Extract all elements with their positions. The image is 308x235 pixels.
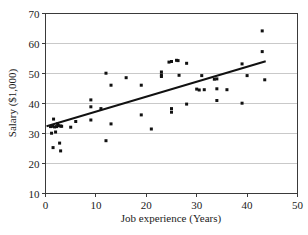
data-point <box>241 102 244 105</box>
data-point <box>89 119 92 122</box>
y-tick-label: 50 <box>29 68 41 80</box>
data-point <box>160 71 163 74</box>
data-point <box>185 62 188 65</box>
y-tick-label: 30 <box>29 128 41 140</box>
y-tick-label: 60 <box>29 38 41 50</box>
data-point <box>177 59 180 62</box>
data-point <box>140 113 143 116</box>
data-point <box>52 118 55 121</box>
regression-line <box>48 62 265 127</box>
data-point <box>104 139 107 142</box>
data-point <box>59 149 62 152</box>
data-point <box>60 125 63 128</box>
x-tick-label: 10 <box>90 199 102 211</box>
data-point <box>261 29 264 32</box>
data-point <box>89 98 92 101</box>
data-point <box>170 111 173 114</box>
data-point <box>246 74 249 77</box>
data-point <box>89 105 92 108</box>
data-point <box>104 72 107 75</box>
y-tick-label: 40 <box>29 98 41 110</box>
data-point <box>125 76 128 79</box>
data-point <box>69 126 72 129</box>
y-axis-tick-labels: 10203040506070 <box>29 8 41 200</box>
data-point <box>241 62 244 65</box>
y-tick-label: 70 <box>29 8 41 20</box>
data-point <box>150 128 153 131</box>
y-tick-label: 20 <box>29 158 41 170</box>
data-point <box>74 120 77 123</box>
data-point <box>263 78 266 81</box>
data-point <box>110 84 113 87</box>
x-tick-label: 20 <box>141 199 153 211</box>
data-point <box>160 75 163 78</box>
y-axis-title: Salary ($1,000) <box>6 68 19 137</box>
data-point <box>58 142 61 145</box>
data-point <box>54 131 57 134</box>
x-axis-title: Job experience (Years) <box>121 212 222 225</box>
data-point <box>200 74 203 77</box>
x-tick-label: 40 <box>242 199 254 211</box>
data-point <box>140 84 143 87</box>
scatter-plot-figure: 01020304050 10203040506070 Job experienc… <box>0 0 308 235</box>
chart-canvas: 01020304050 10203040506070 Job experienc… <box>0 0 308 235</box>
data-point <box>170 107 173 110</box>
data-point <box>203 88 206 91</box>
x-axis-tick-labels: 01020304050 <box>43 199 304 211</box>
data-point <box>170 60 173 63</box>
data-point <box>215 87 218 90</box>
data-point <box>215 99 218 102</box>
x-tick-label: 50 <box>292 199 304 211</box>
data-point <box>178 74 181 77</box>
x-tick-label: 0 <box>43 199 49 211</box>
y-tick-label: 10 <box>29 188 41 200</box>
data-point <box>50 132 53 135</box>
data-point <box>198 89 201 92</box>
data-point <box>52 146 55 149</box>
data-point <box>261 50 264 53</box>
data-point <box>215 77 218 80</box>
x-tick-label: 30 <box>191 199 203 211</box>
data-point <box>225 88 228 91</box>
trend-line <box>48 62 265 127</box>
data-point <box>185 103 188 106</box>
data-point <box>110 122 113 125</box>
